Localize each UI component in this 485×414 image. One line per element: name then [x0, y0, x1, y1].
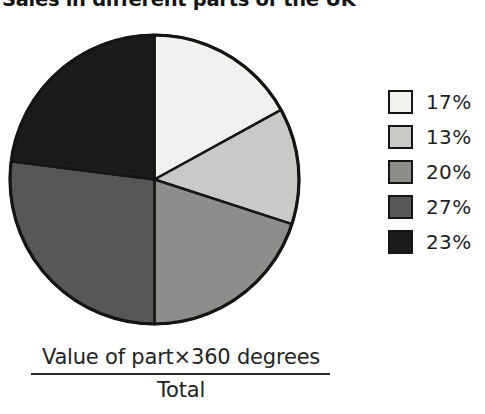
legend-swatch: [388, 160, 413, 184]
chart-title-clip: Sales in different parts of the UK: [0, 0, 485, 13]
pie-slice: [10, 161, 154, 324]
legend-item: 17%: [388, 84, 485, 119]
legend-swatch: [388, 125, 413, 149]
legend-label: 13%: [426, 125, 472, 149]
legend: 17%13%20%27%23%: [388, 84, 485, 259]
legend-item: 20%: [388, 154, 485, 189]
formula-denominator: Total: [31, 377, 331, 403]
legend-swatch: [388, 90, 413, 114]
formula-numerator: Value of part×360 degrees: [31, 345, 331, 370]
legend-label: 27%: [426, 195, 472, 219]
formula-fraction-bar: [31, 373, 330, 375]
legend-swatch: [388, 195, 413, 219]
pie-chart-svg: [6, 31, 303, 328]
formula-block: Value of part×360 degrees Total: [31, 345, 331, 403]
legend-item: 13%: [388, 119, 485, 154]
legend-label: 20%: [426, 160, 472, 184]
legend-swatch: [388, 230, 413, 254]
legend-item: 23%: [388, 224, 485, 259]
pie-chart: [6, 31, 303, 328]
legend-label: 23%: [426, 230, 472, 254]
pie-slice: [11, 35, 154, 180]
page-title: Sales in different parts of the UK: [2, 0, 356, 11]
legend-label: 17%: [426, 90, 472, 114]
legend-item: 27%: [388, 189, 485, 224]
